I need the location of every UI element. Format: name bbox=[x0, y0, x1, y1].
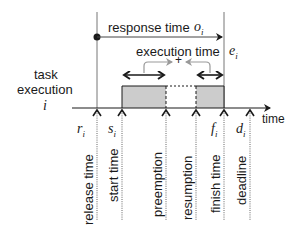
release-symbol: ri bbox=[77, 122, 85, 141]
deadline-symbol: di bbox=[236, 122, 246, 141]
resumption-label: resumption bbox=[181, 156, 194, 220]
task-execution-diagram: task execution i response time oi execut… bbox=[0, 0, 298, 239]
response-time-symbol: oi bbox=[194, 20, 204, 39]
response-time-label: response time bbox=[108, 21, 190, 34]
task-label: task bbox=[34, 68, 58, 81]
deadline-label: deadline bbox=[235, 156, 248, 205]
execution-segment-1 bbox=[122, 86, 166, 108]
release-time-label: release time bbox=[82, 154, 95, 225]
start-time-label: start time bbox=[107, 149, 120, 202]
combine-bracket-left bbox=[144, 62, 172, 73]
execution-time-symbol: ei bbox=[229, 44, 238, 63]
execution-label: execution bbox=[17, 83, 73, 96]
time-axis-label: time bbox=[262, 113, 285, 126]
task-index-symbol: i bbox=[43, 99, 47, 112]
finish-symbol: fi bbox=[211, 122, 217, 141]
preemption-label: preemption bbox=[151, 152, 164, 217]
plus-sign: + bbox=[175, 54, 182, 67]
start-symbol: si bbox=[108, 122, 116, 141]
finish-time-label: finish time bbox=[209, 154, 222, 213]
execution-segment-2 bbox=[196, 86, 224, 108]
diagram-graphics bbox=[0, 0, 298, 239]
combine-bracket-right bbox=[186, 62, 210, 73]
